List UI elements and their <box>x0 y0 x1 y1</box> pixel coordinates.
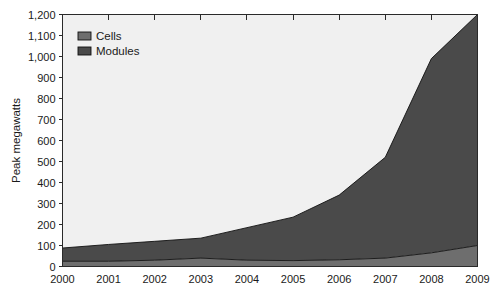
chart-container: 01002003004005006007008009001,0001,1001,… <box>0 0 495 295</box>
y-tick-label: 1,000 <box>28 51 56 63</box>
legend-label: Cells <box>96 30 122 42</box>
x-tick-label: 2007 <box>373 273 397 285</box>
x-tick-label: 2002 <box>142 273 166 285</box>
y-tick-label: 200 <box>37 219 55 231</box>
legend-item: Cells <box>78 30 122 42</box>
legend-item: Modules <box>78 45 140 57</box>
x-tick-label: 2004 <box>235 273 259 285</box>
y-tick-label: 600 <box>37 135 55 147</box>
y-tick-label: 0 <box>49 261 55 273</box>
y-axis-title: Peak megawatts <box>10 98 22 183</box>
y-tick-label: 800 <box>37 93 55 105</box>
x-tick-label: 2001 <box>96 273 120 285</box>
x-tick-label: 2008 <box>419 273 443 285</box>
y-tick-label: 1,200 <box>28 9 56 21</box>
y-tick-label: 300 <box>37 198 55 210</box>
y-tick-label: 400 <box>37 177 55 189</box>
legend-label: Modules <box>96 45 140 57</box>
x-tick-label: 2000 <box>50 273 74 285</box>
y-tick-label: 1,100 <box>28 30 56 42</box>
legend-swatch <box>78 47 91 55</box>
x-tick-label: 2003 <box>189 273 213 285</box>
y-tick-label: 700 <box>37 114 55 126</box>
x-tick-label: 2005 <box>281 273 305 285</box>
x-tick-label: 2006 <box>327 273 351 285</box>
x-tick-label: 2009 <box>465 273 489 285</box>
y-tick-label: 500 <box>37 156 55 168</box>
stacked-area-chart: 01002003004005006007008009001,0001,1001,… <box>0 0 495 295</box>
y-tick-label: 100 <box>37 240 55 252</box>
legend-swatch <box>78 32 91 40</box>
y-tick-label: 900 <box>37 72 55 84</box>
